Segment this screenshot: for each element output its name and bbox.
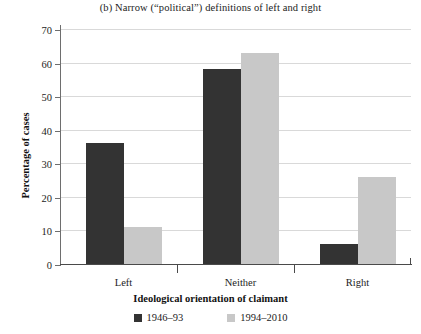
bar-chart-figure: (b) Narrow (“political”) definitions of … <box>0 0 421 334</box>
y-tick-label: 0 <box>47 260 52 271</box>
y-tick-label: 60 <box>42 58 53 69</box>
y-tick-label: 10 <box>42 226 53 237</box>
y-tick-mark <box>55 131 60 132</box>
y-tick-mark <box>55 164 60 165</box>
legend-swatch-icon <box>227 314 235 322</box>
gridline <box>61 29 411 30</box>
y-tick-mark <box>55 198 60 199</box>
y-tick-mark <box>55 97 60 98</box>
y-tick-label: 20 <box>42 192 53 203</box>
chart-legend: 1946–931994–2010 <box>0 312 421 323</box>
chart-title: (b) Narrow (“political”) definitions of … <box>0 2 421 13</box>
y-tick-label: 40 <box>42 125 53 136</box>
x-axis-line <box>60 264 412 265</box>
y-tick-mark <box>55 64 60 65</box>
y-tick-mark <box>55 265 60 266</box>
y-tick-mark <box>55 231 60 232</box>
gridline <box>61 63 411 64</box>
y-tick-mark <box>55 30 60 31</box>
y-tick-label: 70 <box>42 25 53 36</box>
plot-area: 010203040506070 LeftNeitherRight <box>60 29 411 265</box>
legend-label: 1946–93 <box>147 312 184 323</box>
legend-label: 1994–2010 <box>240 312 287 323</box>
legend-item-1994–2010: 1994–2010 <box>227 312 287 323</box>
bar-left-1946–93 <box>86 143 124 264</box>
bar-neither-1994–2010 <box>241 53 279 265</box>
bar-right-1994–2010 <box>358 177 396 264</box>
x-tick-mark <box>294 265 295 273</box>
x-axis-title: Ideological orientation of claimant <box>0 293 421 304</box>
y-axis-title: Percentage of cases <box>20 46 31 266</box>
legend-swatch-icon <box>134 314 142 322</box>
legend-item-1946–93: 1946–93 <box>134 312 184 323</box>
x-category-label-neither: Neither <box>225 277 257 288</box>
bar-neither-1946–93 <box>203 69 241 264</box>
x-axis-right-tick <box>410 258 411 265</box>
bar-right-1946–93 <box>320 244 358 264</box>
bar-left-1994–2010 <box>124 227 162 264</box>
y-tick-label: 30 <box>42 159 53 170</box>
x-category-label-right: Right <box>346 277 369 288</box>
x-category-label-left: Left <box>115 277 133 288</box>
x-tick-mark <box>177 265 178 273</box>
y-tick-label: 50 <box>42 92 53 103</box>
